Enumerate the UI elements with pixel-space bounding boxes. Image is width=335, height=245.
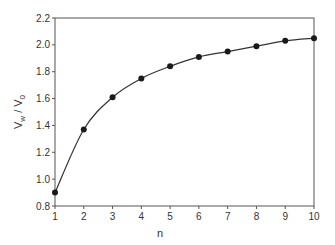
x-axis-label: n — [157, 227, 163, 239]
data-point — [52, 190, 58, 196]
y-axis: 0.81.01.21.41.61.82.02.2 — [36, 13, 55, 212]
y-tick-label: 1.4 — [36, 120, 50, 131]
x-tick-label: 5 — [167, 211, 173, 222]
plot-frame — [55, 18, 314, 206]
data-point — [282, 38, 288, 44]
data-point — [167, 63, 173, 69]
x-tick-label: 7 — [225, 211, 231, 222]
x-tick-label: 2 — [81, 211, 87, 222]
line-chart: 0.81.01.21.41.61.82.02.2 12345678910 n V… — [0, 0, 335, 245]
x-tick-label: 9 — [282, 211, 288, 222]
y-tick-label: 2.0 — [36, 39, 50, 50]
data-point — [81, 126, 87, 132]
y-tick-label: 1.2 — [36, 147, 50, 158]
series-line — [55, 38, 314, 192]
data-points — [52, 35, 317, 195]
data-point — [138, 75, 144, 81]
y-tick-label: 1.6 — [36, 93, 50, 104]
data-point — [225, 49, 231, 55]
y-tick-label: 0.8 — [36, 201, 50, 212]
x-axis: 12345678910 — [52, 206, 320, 222]
x-tick-label: 4 — [139, 211, 145, 222]
x-tick-label: 8 — [254, 211, 260, 222]
x-tick-label: 6 — [196, 211, 202, 222]
y-tick-label: 1.0 — [36, 174, 50, 185]
data-point — [110, 94, 116, 100]
y-tick-label: 2.2 — [36, 13, 50, 24]
x-tick-label: 3 — [110, 211, 116, 222]
data-point — [196, 54, 202, 60]
x-tick-label: 1 — [52, 211, 58, 222]
x-tick-label: 10 — [308, 211, 320, 222]
y-axis-label: Vw / V0 — [12, 94, 27, 129]
y-tick-label: 1.8 — [36, 66, 50, 77]
data-point — [253, 43, 259, 49]
data-point — [311, 35, 317, 41]
